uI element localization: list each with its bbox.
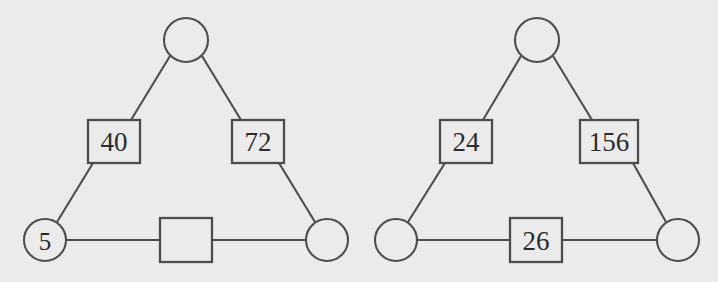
left-top-node[interactable] bbox=[164, 18, 208, 62]
right-edge-upleft-label: 24 bbox=[453, 127, 481, 157]
left-connector-upright-to-bottomright bbox=[279, 163, 315, 222]
left-edge-upright-label: 72 bbox=[245, 127, 272, 157]
right-edge-upright-label: 156 bbox=[589, 127, 630, 157]
right-edge-bottom-label: 26 bbox=[523, 226, 550, 256]
right-triangle-diagram: 24 156 26 bbox=[375, 18, 699, 262]
right-bottom-left-node[interactable] bbox=[375, 219, 417, 261]
right-connector-upright-to-bottomright bbox=[633, 163, 666, 222]
triangle-puzzle-figure: 5 40 72 24 bbox=[0, 0, 718, 282]
right-connector-top-to-upleft bbox=[483, 56, 521, 120]
right-connector-top-to-upright bbox=[553, 56, 592, 120]
left-bottom-left-node-label: 5 bbox=[39, 228, 52, 255]
left-connector-top-to-upright bbox=[202, 56, 241, 120]
left-edge-upleft-label: 40 bbox=[101, 127, 128, 157]
left-edge-bottom-box[interactable] bbox=[160, 218, 212, 262]
left-connector-top-to-upleft bbox=[131, 56, 170, 120]
right-bottom-right-node[interactable] bbox=[657, 219, 699, 261]
right-connector-upleft-to-bottomleft bbox=[408, 163, 445, 222]
left-bottom-right-node[interactable] bbox=[306, 219, 348, 261]
diagram-canvas: 5 40 72 24 bbox=[0, 0, 718, 282]
left-connector-upleft-to-bottomleft bbox=[57, 163, 93, 222]
left-triangle-diagram: 5 40 72 bbox=[24, 18, 348, 262]
right-top-node[interactable] bbox=[515, 18, 559, 62]
